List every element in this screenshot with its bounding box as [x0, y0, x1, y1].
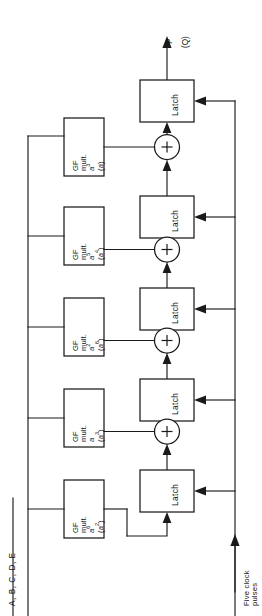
diagram-canvas	[0, 0, 262, 616]
wire-latch4-to-adder3	[163, 353, 172, 379]
latch-4-box	[140, 379, 194, 421]
wire-latch2-to-adder1	[163, 160, 172, 196]
input-bus-label: A, B, C, D, E	[9, 552, 18, 606]
latch-4-label: Latch	[171, 393, 180, 415]
input-bus	[13, 136, 64, 616]
adder-4-symbol	[155, 419, 180, 444]
gf-mult-5-label: GF mult. a6 (a2)	[72, 516, 105, 533]
latch-5-label: Latch	[171, 484, 180, 506]
clock-label: Five clock pulses	[243, 570, 259, 606]
gf-mult-3-label: GF mult. a2 (a6)	[72, 334, 105, 351]
wire-gfmult5-to-latch5	[127, 512, 171, 536]
clock-bus	[194, 97, 240, 616]
adder-2-symbol	[155, 237, 180, 262]
latch-3-box	[140, 288, 194, 330]
latch-1-box	[140, 80, 194, 122]
latch-2-label: Latch	[171, 210, 180, 232]
latch-5-box	[140, 470, 194, 512]
wire-latch3-to-adder2	[163, 262, 172, 288]
gf-mult-4-label: GF mult. a (a3)	[72, 425, 105, 442]
gf-mult-1-label: GF mult. a3 (a)	[72, 154, 105, 171]
clock-label-line2: pulses	[251, 570, 259, 606]
gf-mult-3-alternate: (a6)	[97, 334, 105, 351]
output-label-p: P	[166, 39, 175, 44]
adder-3-symbol	[155, 328, 180, 353]
latch-2-box	[140, 196, 194, 238]
latch-3-label: Latch	[171, 302, 180, 324]
latch-1-label: Latch	[171, 94, 180, 116]
adder-1-symbol	[155, 135, 180, 160]
gf-mult-5-alternate: (a2)	[97, 516, 105, 533]
output-label-q: (Q)	[182, 36, 191, 48]
gf-mult-2-label: GF mult. a5 (a4)	[72, 243, 105, 260]
gf-mult-2-alternate: (a4)	[97, 243, 105, 260]
gf-mult-1-alternate: (a)	[97, 154, 105, 171]
block-diagram-figure: P (Q) Latch Latch Latch Latch Latch GF m…	[0, 0, 262, 616]
gf-mult-4-alternate: (a3)	[97, 425, 105, 442]
wire-latch5-to-adder4	[163, 444, 172, 470]
